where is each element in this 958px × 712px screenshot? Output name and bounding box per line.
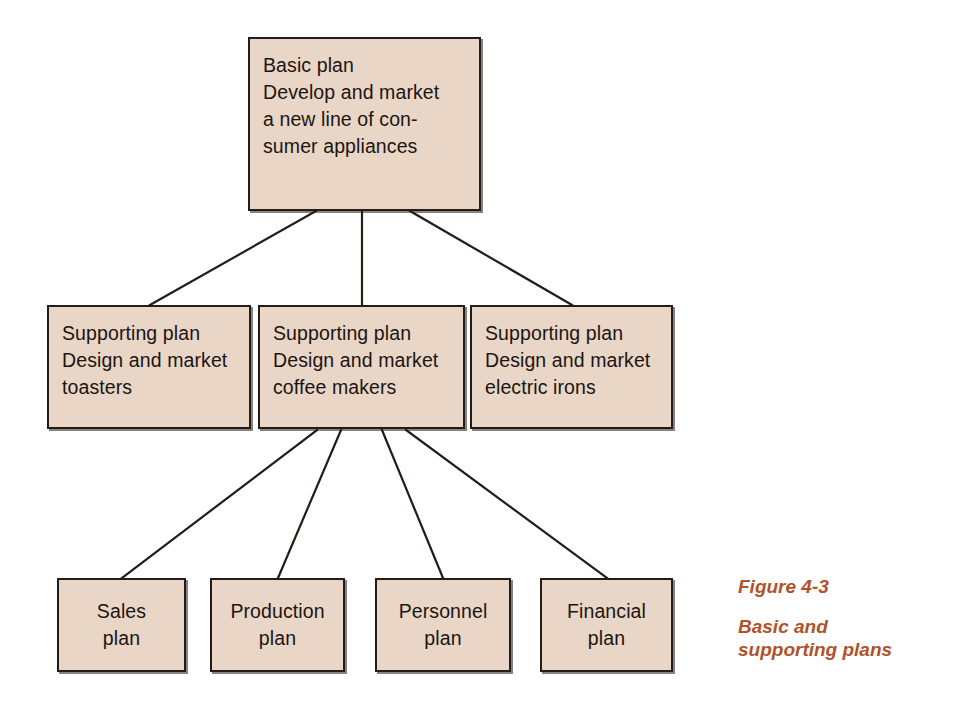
node-personnel-plan-label: Personnel plan	[377, 598, 509, 652]
node-basic-plan-label: Basic plan Develop and market a new line…	[250, 39, 479, 160]
node-supporting-plan-coffee-makers-label: Supporting plan Design and market coffee…	[260, 307, 463, 401]
figure-caption-number: Figure 4-3	[738, 575, 948, 599]
figure-basic-and-supporting-plans: Basic plan Develop and market a new line…	[0, 0, 958, 712]
node-personnel-plan: Personnel plan	[375, 578, 511, 672]
connector-coffee-to-financial	[406, 430, 607, 578]
node-supporting-plan-electric-irons: Supporting plan Design and market electr…	[470, 305, 673, 429]
figure-caption: Figure 4-3 Basic and supporting plans	[738, 575, 948, 661]
node-sales-plan: Sales plan	[57, 578, 186, 672]
node-sales-plan-label: Sales plan	[59, 598, 184, 652]
node-production-plan: Production plan	[210, 578, 345, 672]
node-production-plan-label: Production plan	[212, 598, 343, 652]
node-basic-plan: Basic plan Develop and market a new line…	[248, 37, 481, 211]
node-supporting-plan-coffee-makers: Supporting plan Design and market coffee…	[258, 305, 465, 429]
connector-basic-to-toasters	[150, 211, 316, 305]
node-financial-plan: Financial plan	[540, 578, 673, 672]
figure-caption-title: Basic and supporting plans	[738, 615, 948, 661]
node-supporting-plan-toasters: Supporting plan Design and market toaste…	[47, 305, 251, 429]
node-supporting-plan-toasters-label: Supporting plan Design and market toaste…	[49, 307, 249, 401]
connector-basic-to-irons	[410, 211, 572, 305]
connector-coffee-to-personnel	[382, 430, 443, 578]
node-financial-plan-label: Financial plan	[542, 598, 671, 652]
node-supporting-plan-electric-irons-label: Supporting plan Design and market electr…	[472, 307, 671, 401]
